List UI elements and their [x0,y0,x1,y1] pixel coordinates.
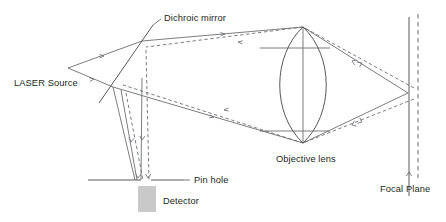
emission-ray-to-pinhole-right [146,50,149,180]
excitation-ray-upper-reflected [142,27,303,41]
label-objective-lens: Objective lens [276,154,336,164]
arrow-excitation-upper-converging [357,62,362,67]
excitation-ray-group [68,27,408,143]
excitation-ray-upper-incoming [68,41,142,68]
emission-ray-lower-to-mirror [120,84,303,143]
arrow-excitation-lower-converging [357,118,362,124]
label-pin-hole: Pin hole [194,175,228,185]
ray-direction-arrows [89,33,411,178]
label-laser-source: LASER Source [14,78,78,88]
label-detector: Detector [163,196,199,206]
emission-ray-group [120,27,414,180]
arrow-descend-right [140,136,145,140]
return-ray-left-solid [113,87,135,180]
optical-diagram: Dichroic mirror LASER Source Pin hole De… [0,0,446,222]
excitation-ray-lower-converging [303,93,408,143]
arrow-emission-upper-to-mirror [238,41,243,44]
label-focal-plane: Focal Plane [380,184,430,194]
dichroic-mirror-leader [153,19,161,25]
return-ray-right-solid [141,78,142,180]
emission-ray-lower-from-focus [303,99,414,143]
arrow-pinhole-right [146,174,151,178]
diagram-canvas: Dichroic mirror LASER Source Pin hole De… [0,0,446,222]
label-dichroic-mirror: Dichroic mirror [164,13,226,23]
detection-solid-group [113,78,142,180]
detector-element [138,186,156,212]
emission-ray-upper-from-focus [303,27,414,88]
arrow-descend-left [129,138,134,142]
arrow-emission-lower-to-mirror [224,108,229,111]
emission-ray-upper-to-mirror [146,27,303,47]
